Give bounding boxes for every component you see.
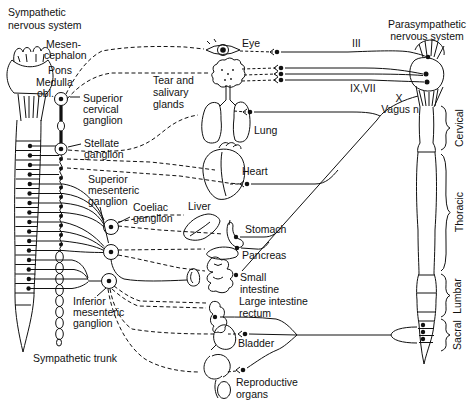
sympathetic-trunk <box>55 93 68 347</box>
label-region-thoracic: Thoracic <box>453 192 465 232</box>
prevertebral-ganglia <box>102 220 188 289</box>
label-glands-line3: glands <box>153 98 184 110</box>
organ-stomach <box>227 220 243 247</box>
label-mesencephalon-line2: cephalon <box>44 49 87 61</box>
oculomotor-nerve-line <box>281 51 427 57</box>
organ-heart <box>203 143 245 200</box>
label-sympathetic-trunk: Sympathetic trunk <box>33 352 118 364</box>
cranial-parasympathetic-fibers <box>240 51 427 271</box>
label-large-intestine-line2: rectum <box>239 307 271 319</box>
region-brace-lumbar <box>441 274 450 317</box>
label-pons: Pons <box>48 64 72 76</box>
organ-tear-salivary-glands <box>212 58 276 87</box>
trunk-chain-beads <box>56 251 64 346</box>
label-eye: Eye <box>242 37 260 49</box>
label-stomach: Stomach <box>245 223 287 235</box>
label-cn-ix-vii: IX,VII <box>350 82 376 94</box>
facial-glossopharyngeal-lines <box>285 68 424 82</box>
label-liver: Liver <box>188 200 211 212</box>
label-small-intestine-line2: intestine <box>240 283 279 295</box>
label-vagus-n: Vagus n <box>381 103 419 115</box>
parasympathetic-terminal-dots <box>236 49 283 373</box>
label-glands-line2: salivary <box>153 86 189 98</box>
label-bladder: Bladder <box>238 337 275 349</box>
label-coeliac-ganglion-line2: ganglion <box>133 212 173 224</box>
label-small-intestine-line1: Small <box>240 271 266 283</box>
label-medulla-line2: obl. <box>37 87 54 99</box>
region-brace-thoracic <box>441 154 450 271</box>
label-pancreas: Pancreas <box>242 249 286 261</box>
middle-cervical-ganglion-node <box>58 121 65 131</box>
organ-reproductive <box>204 354 236 398</box>
spinal-cord-left <box>15 120 41 352</box>
sympathetic-title-line2: nervous system <box>8 19 82 31</box>
label-cn-iii: III <box>352 37 361 49</box>
organ-liver <box>184 214 220 240</box>
label-region-cervical: Cervical <box>453 109 465 147</box>
organ-lung <box>202 85 250 143</box>
organ-bladder <box>211 325 236 350</box>
label-inferior-mesenteric-ganglion-line3: ganglion <box>73 317 113 329</box>
parasympathetic-title-line2: nervous system <box>390 30 464 42</box>
label-superior-mesenteric-ganglion-line3: ganglion <box>88 195 128 207</box>
parasympathetic-title-line1: Parasympathetic <box>388 18 466 30</box>
spinal-cord-right <box>417 107 437 364</box>
organ-eye <box>206 39 273 56</box>
diagram-canvas: Sympathetic nervous system Parasympathet… <box>0 0 473 407</box>
label-reproductive-line2: organs <box>236 388 268 400</box>
region-brace-sacral <box>441 319 450 351</box>
region-brace-cervical <box>441 106 450 150</box>
autonomic-nervous-system-diagram: Sympathetic nervous system Parasympathet… <box>0 0 473 407</box>
organ-small-intestine <box>207 257 238 293</box>
label-region-lumbar: Lumbar <box>451 278 463 314</box>
label-stellate-ganglion-line2: ganglion <box>84 148 124 160</box>
label-reproductive-line1: Reproductive <box>236 376 298 388</box>
label-lung: Lung <box>254 124 278 136</box>
label-region-sacral: Sacral <box>451 320 463 350</box>
label-glands-line1: Tear and <box>153 74 194 86</box>
label-large-intestine-line1: Large intestine <box>239 295 308 307</box>
label-superior-cervical-ganglion-line3: ganglion <box>83 114 123 126</box>
sympathetic-title-line1: Sympathetic <box>8 6 66 18</box>
spinal-region-braces <box>441 106 450 351</box>
organ-cecum <box>187 269 200 286</box>
organ-pancreas <box>207 246 240 259</box>
label-heart: Heart <box>242 165 268 177</box>
